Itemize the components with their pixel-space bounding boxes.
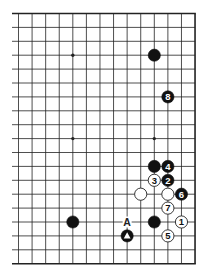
- white-stone-5: 5: [162, 230, 174, 242]
- star-point-icon: [71, 137, 74, 140]
- star-point-icon: [71, 54, 74, 57]
- black-stone-8: 8: [162, 91, 174, 103]
- black-stone-6: 6: [175, 188, 187, 200]
- black-stone: [148, 160, 160, 172]
- black-stone: [148, 216, 160, 228]
- black-stone-icon: [148, 216, 160, 228]
- point-label: A: [123, 216, 131, 228]
- white-stone: [135, 188, 147, 200]
- black-stone-icon: [148, 160, 160, 172]
- black-stone: [67, 216, 79, 228]
- board-grid: [12, 14, 196, 264]
- go-board-diagram: A 12345678: [0, 0, 206, 276]
- move-number: 3: [152, 175, 157, 186]
- white-stone-3: 3: [148, 174, 160, 186]
- go-board: A 12345678: [0, 0, 206, 276]
- black-stone: [148, 49, 160, 61]
- move-number: 2: [165, 175, 170, 186]
- move-number: 8: [165, 91, 170, 102]
- move-number: 1: [179, 216, 185, 227]
- white-stone: [162, 188, 174, 200]
- black-stone-4: 4: [162, 160, 174, 172]
- black-stone-2: 2: [162, 174, 174, 186]
- white-stone-7: 7: [162, 202, 174, 214]
- move-number: 5: [165, 230, 171, 241]
- black-stone: [121, 230, 133, 242]
- white-stone-icon: [135, 188, 147, 200]
- move-number: 7: [165, 202, 170, 213]
- move-number: 4: [165, 161, 171, 172]
- white-stone-1: 1: [175, 216, 187, 228]
- white-stone-icon: [162, 188, 174, 200]
- black-stone-icon: [67, 216, 79, 228]
- point-labels: A: [123, 216, 132, 228]
- star-point-icon: [153, 137, 156, 140]
- black-stone-icon: [148, 49, 160, 61]
- move-number: 6: [179, 189, 184, 200]
